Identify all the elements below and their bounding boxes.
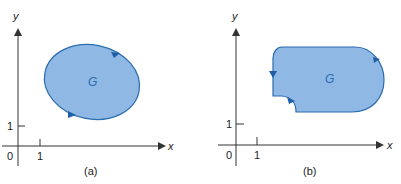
panel-a: G y x 1 1 0 (a) [2, 10, 174, 177]
x-tick-label: 1 [37, 150, 43, 162]
panel-b: G y x 1 1 0 (b) [218, 10, 393, 177]
y-tick-label: 1 [7, 120, 13, 132]
origin-label: 0 [7, 150, 13, 162]
panel-caption: (b) [303, 165, 316, 177]
y-tick-label: 1 [226, 118, 232, 130]
origin-label: 0 [226, 149, 232, 161]
x-axis-label: x [386, 139, 393, 151]
y-axis-label: y [231, 10, 239, 22]
y-axis-label: y [12, 10, 20, 22]
x-axis-label: x [167, 140, 174, 152]
panel-caption: (a) [84, 165, 97, 177]
x-tick-label: 1 [254, 149, 260, 161]
region-label: G [325, 72, 334, 86]
region-label: G [88, 75, 97, 89]
figure: G y x 1 1 0 (a) G y x 1 1 0 (b) [0, 0, 401, 184]
